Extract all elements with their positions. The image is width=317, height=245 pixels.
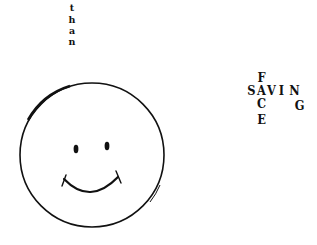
left-eye — [74, 145, 79, 153]
smiley-face-icon — [0, 0, 317, 245]
smile-mouth — [64, 177, 118, 192]
right-eye — [105, 142, 110, 150]
